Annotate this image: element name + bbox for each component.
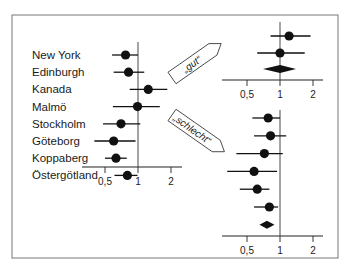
point-estimate — [253, 185, 262, 194]
row-label: Kanada — [32, 83, 72, 95]
tick-label: 2 — [168, 176, 174, 187]
point-estimate — [116, 119, 125, 128]
point-estimate — [265, 202, 274, 211]
point-estimate — [264, 113, 273, 122]
row-label: Edinburgh — [32, 66, 84, 78]
tick-label: 0,5 — [240, 89, 254, 100]
tick-label: 1 — [135, 176, 141, 187]
row-label: Göteborg — [32, 135, 80, 147]
point-estimate — [133, 102, 142, 111]
point-estimate — [144, 85, 153, 94]
tick-label: 0,5 — [98, 176, 112, 187]
row-label: Malmö — [32, 101, 67, 113]
tick-label: 1 — [277, 89, 283, 100]
tick-label: 2 — [310, 89, 316, 100]
tick-label: 2 — [310, 245, 316, 256]
row-label: New York — [32, 49, 81, 61]
point-estimate — [260, 149, 269, 158]
tick-label: 1 — [277, 245, 283, 256]
point-estimate — [249, 167, 258, 176]
tick-label: 0,5 — [240, 245, 254, 256]
point-estimate — [121, 50, 130, 59]
row-label: Östergötland — [32, 169, 98, 181]
point-estimate — [284, 31, 293, 40]
point-estimate — [275, 48, 284, 57]
point-estimate — [266, 131, 275, 140]
point-estimate — [109, 136, 118, 145]
point-estimate — [111, 154, 120, 163]
row-label: Stockholm — [32, 118, 86, 130]
point-estimate — [124, 68, 133, 77]
forest-plot-chart: 0,512New YorkEdinburghKanadaMalmöStockho… — [0, 0, 345, 275]
point-estimate — [123, 171, 132, 180]
row-label: Koppaberg — [32, 152, 88, 164]
